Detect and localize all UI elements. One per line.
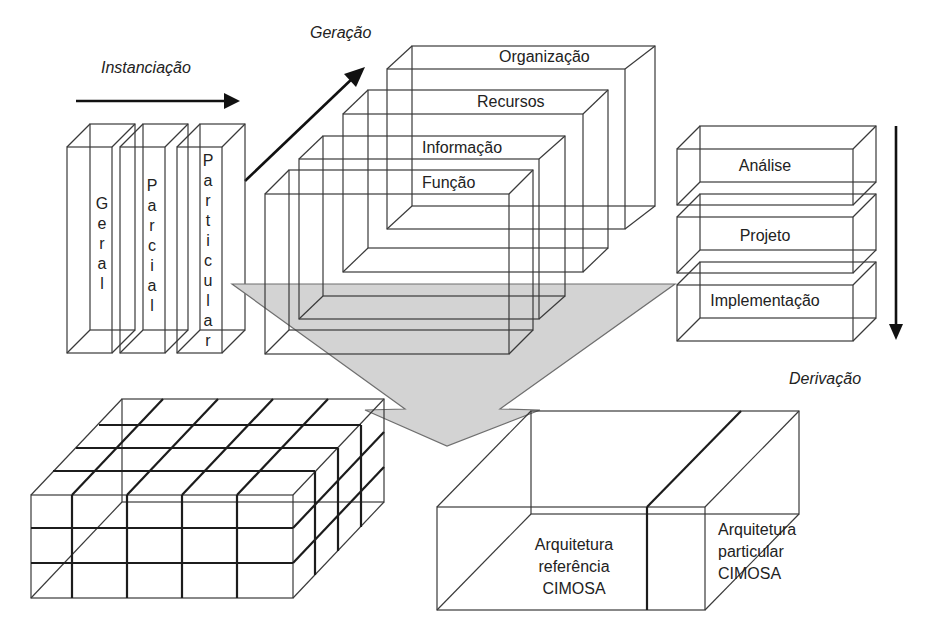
letter: a <box>98 254 107 274</box>
letter: l <box>206 291 210 311</box>
instanciacao-label: Instanciação <box>101 59 191 77</box>
geracao-label: Geração <box>310 24 371 42</box>
letter: r <box>149 216 154 236</box>
label-line: referência <box>524 556 624 578</box>
view-recursos-label: Recursos <box>477 93 545 111</box>
letter: a <box>148 276 157 296</box>
level-analise-label: Análise <box>700 157 830 175</box>
column-geral-label: G e r a l <box>95 194 109 294</box>
cube-grid <box>31 399 384 598</box>
letter: r <box>99 234 104 254</box>
column-parcial-label: P a r c i a l <box>145 176 159 316</box>
label-line: Arquitetura <box>718 519 796 541</box>
arquitetura-referencia-label: Arquitetura referência CIMOSA <box>524 534 624 600</box>
geracao-arrow <box>245 67 365 181</box>
letter: G <box>96 194 108 214</box>
letter: i <box>150 256 154 276</box>
letter: P <box>203 151 214 171</box>
letter: c <box>204 251 212 271</box>
column-particular-label: P a r t i c u l a r <box>201 151 215 351</box>
letter: l <box>150 296 154 316</box>
letter: a <box>204 311 213 331</box>
letter: r <box>205 191 210 211</box>
letter: a <box>204 171 213 191</box>
label-line: CIMOSA <box>718 563 796 585</box>
view-organizacao-label: Organização <box>499 48 590 66</box>
derivacao-arrow <box>889 126 903 340</box>
letter: P <box>147 176 158 196</box>
label-line: CIMOSA <box>524 578 624 600</box>
letter: l <box>100 274 104 294</box>
level-implementacao-label: Implementação <box>700 292 830 310</box>
instanciacao-arrow <box>76 93 240 109</box>
derivacao-label: Derivação <box>789 370 861 388</box>
label-line: particular <box>718 541 796 563</box>
view-funcao-label: Função <box>422 174 475 192</box>
letter: a <box>148 196 157 216</box>
view-recursos-box <box>343 90 608 272</box>
letter: r <box>205 331 210 351</box>
letter: c <box>148 236 156 256</box>
letter: u <box>204 271 213 291</box>
letter: t <box>206 211 210 231</box>
letter: e <box>98 214 107 234</box>
level-projeto-label: Projeto <box>700 227 830 245</box>
arquitetura-particular-label: Arquitetura particular CIMOSA <box>718 519 796 585</box>
letter: i <box>206 231 210 251</box>
label-line: Arquitetura <box>524 534 624 556</box>
view-informacao-label: Informação <box>422 139 502 157</box>
cimosa-cube-diagram: Instanciação Geração Derivação G e r a l… <box>0 0 928 625</box>
view-organizacao-box <box>387 46 655 229</box>
